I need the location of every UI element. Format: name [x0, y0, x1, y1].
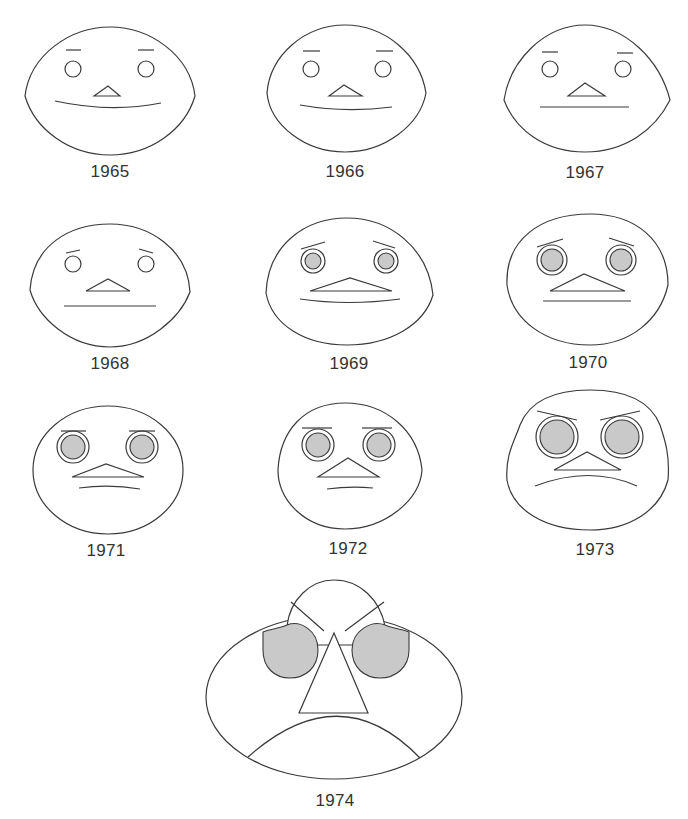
- face-1967: [504, 25, 670, 152]
- face-1973: [507, 390, 669, 530]
- face-1972: [278, 403, 422, 529]
- face-1971: [33, 406, 183, 534]
- face-1965: [25, 27, 195, 155]
- face-1970: [507, 214, 668, 345]
- label-1970: 1970: [548, 353, 628, 373]
- label-1971: 1971: [66, 541, 146, 561]
- label-1973: 1973: [555, 540, 635, 560]
- face-1966: [267, 25, 426, 152]
- label-1968: 1968: [70, 354, 150, 374]
- label-1972: 1972: [308, 539, 388, 559]
- face-1969: [266, 218, 433, 345]
- label-1969: 1969: [309, 354, 389, 374]
- chernoff-faces-diagram: [0, 0, 688, 819]
- label-1967: 1967: [545, 163, 625, 183]
- face-1974: [206, 580, 462, 779]
- label-1965: 1965: [70, 162, 150, 182]
- label-1966: 1966: [305, 162, 385, 182]
- label-1974: 1974: [295, 791, 375, 811]
- face-1968: [30, 224, 190, 347]
